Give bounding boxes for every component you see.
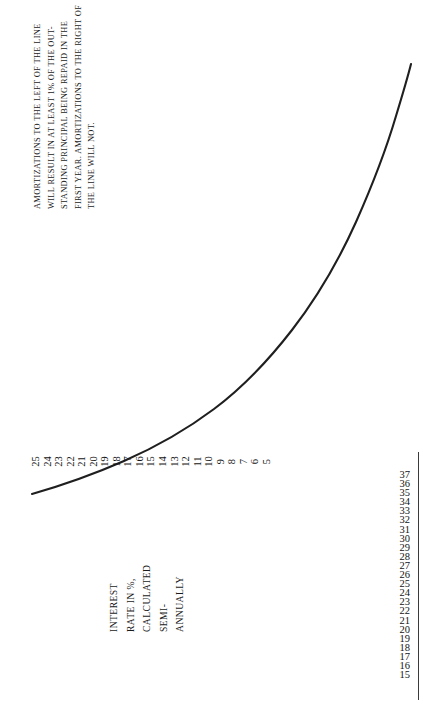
y-tick: 20	[88, 456, 99, 468]
y-tick: 25	[30, 456, 41, 468]
x-axis-tick-labels: 15 16 17 18 19 20 21 22 23 24 25 26 27 2…	[400, 470, 411, 679]
y-tick: 10	[203, 456, 214, 468]
y-tick: 5	[261, 456, 272, 468]
y-tick: 23	[53, 456, 64, 468]
y-axis-title-line-3: CALCULATED	[139, 565, 156, 632]
y-tick: 22	[65, 456, 76, 468]
boundary-line-path	[32, 64, 411, 494]
y-axis-tick-labels: 25 24 23 22 21 20 19 18 17 16 15 14 13 1…	[30, 456, 272, 467]
x-tick: 15	[400, 670, 411, 679]
figure-canvas: AMORTIZATIONS TO THE LEFT OF THE LINE WI…	[0, 0, 431, 712]
y-tick: 15	[146, 456, 157, 468]
curve-svg	[0, 0, 431, 712]
y-tick: 17	[123, 456, 134, 468]
y-tick: 14	[157, 456, 168, 468]
y-tick: 13	[169, 456, 180, 468]
y-tick: 11	[192, 456, 203, 468]
y-tick: 19	[100, 456, 111, 468]
x-axis-rule	[418, 452, 419, 700]
y-axis-title: INTEREST RATE IN %, CALCULATED SEMI- ANN…	[106, 565, 189, 632]
y-tick: 21	[76, 456, 87, 468]
y-tick: 12	[180, 456, 191, 468]
y-axis-title-line-1: INTEREST	[106, 565, 123, 632]
y-axis-title-line-4: SEMI-	[156, 565, 173, 632]
y-axis-title-line-2: RATE IN %,	[123, 565, 140, 632]
y-tick: 8	[227, 456, 238, 468]
y-tick: 9	[215, 456, 226, 468]
y-tick: 18	[111, 456, 122, 468]
y-tick: 6	[250, 456, 261, 468]
plot-curve	[0, 0, 431, 712]
y-tick: 7	[238, 456, 249, 468]
y-axis-title-line-5: ANNUALLY	[172, 565, 189, 632]
y-tick: 16	[134, 456, 145, 468]
y-tick: 24	[42, 456, 53, 468]
